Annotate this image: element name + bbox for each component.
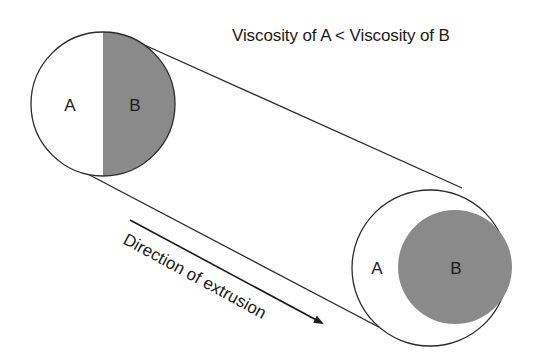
- cylinder-top-edge: [140, 43, 462, 188]
- left-label-b: B: [129, 96, 140, 115]
- right-cross-section: A B: [352, 190, 512, 346]
- extrusion-direction-label: Direction of extrusion: [120, 230, 269, 323]
- right-label-a: A: [371, 259, 383, 278]
- left-label-a: A: [64, 96, 76, 115]
- extrusion-diagram: A B A B Direction of extrusion: [0, 0, 535, 359]
- extrusion-direction-arrow: [130, 220, 322, 323]
- left-cross-section: A B: [31, 32, 175, 176]
- right-label-b: B: [450, 259, 461, 278]
